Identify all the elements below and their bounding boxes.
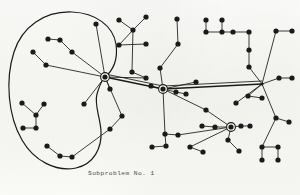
graph-node xyxy=(20,125,25,130)
graph-edge xyxy=(160,44,178,68)
graph-node xyxy=(130,27,135,32)
graph-node xyxy=(81,101,86,106)
graph-node xyxy=(148,83,153,88)
graph-node xyxy=(289,28,294,33)
subproblem-boundary xyxy=(9,12,117,169)
graph-node xyxy=(187,144,192,149)
graph-edge xyxy=(105,77,122,116)
hub-node xyxy=(102,74,107,79)
graph-node xyxy=(273,115,278,120)
graph-node xyxy=(273,28,278,33)
graph-node xyxy=(238,123,243,128)
graph-edge xyxy=(236,84,262,103)
graph-node xyxy=(219,29,224,34)
graph-node xyxy=(233,100,238,105)
graph-node xyxy=(43,62,48,67)
graph-node xyxy=(173,89,178,94)
graph-edge xyxy=(262,118,276,147)
graph-node xyxy=(57,153,62,158)
graph-node xyxy=(149,144,154,149)
figure-caption: Subproblem No. 1 xyxy=(88,170,155,177)
graph-edge xyxy=(163,89,165,134)
graph-edge xyxy=(33,52,46,65)
graph-node xyxy=(33,112,38,117)
graph-node xyxy=(57,37,62,42)
graph-node xyxy=(245,93,250,98)
graph-edge xyxy=(119,44,146,45)
node-layer xyxy=(19,14,294,162)
graph-node xyxy=(175,132,180,137)
graph-node xyxy=(236,148,241,153)
graph-node xyxy=(246,29,251,34)
graph-node xyxy=(183,91,188,96)
graph-node xyxy=(116,17,121,22)
network-diagram xyxy=(0,0,300,195)
graph-node xyxy=(275,157,280,162)
graph-node xyxy=(259,95,264,100)
graph-node xyxy=(69,49,74,54)
graph-node xyxy=(275,144,280,149)
graph-edge xyxy=(132,30,133,72)
graph-node xyxy=(163,143,168,148)
graph-node xyxy=(69,154,74,159)
graph-node xyxy=(200,149,205,154)
graph-node xyxy=(212,124,217,129)
graph-node xyxy=(107,126,112,131)
graph-node xyxy=(246,64,251,69)
graph-node xyxy=(203,107,208,112)
graph-node xyxy=(45,36,50,41)
hub-node xyxy=(228,124,233,129)
graph-node xyxy=(44,143,49,148)
graph-node xyxy=(143,75,148,80)
graph-node xyxy=(19,100,24,105)
graph-node xyxy=(116,42,121,47)
graph-node xyxy=(259,157,264,162)
graph-node xyxy=(143,41,148,46)
graph-node xyxy=(157,65,162,70)
edge-layer xyxy=(22,17,292,160)
graph-edge xyxy=(262,84,276,118)
graph-node xyxy=(286,119,291,124)
graph-node xyxy=(203,29,208,34)
graph-node xyxy=(247,123,252,128)
graph-node xyxy=(219,17,224,22)
graph-node xyxy=(33,125,38,130)
graph-node xyxy=(225,137,230,142)
graph-node xyxy=(41,101,46,106)
boundary-layer xyxy=(9,12,117,169)
graph-edge xyxy=(72,129,110,157)
trunk-edge xyxy=(163,84,262,89)
trunk-edge-parallel xyxy=(105,74,163,86)
graph-node xyxy=(230,29,235,34)
graph-node xyxy=(289,75,294,80)
graph-node xyxy=(107,86,112,91)
graph-node xyxy=(30,49,35,54)
graph-node xyxy=(143,14,148,19)
graph-node xyxy=(203,17,208,22)
graph-edge xyxy=(46,65,105,77)
graph-edge xyxy=(84,77,105,104)
graph-node xyxy=(276,75,281,80)
graph-edge xyxy=(262,78,279,84)
graph-node xyxy=(119,113,124,118)
graph-edge xyxy=(119,30,133,45)
graph-node xyxy=(162,131,167,136)
figure-page: Subproblem No. 1 xyxy=(0,0,300,195)
graph-node xyxy=(199,123,204,128)
graph-node xyxy=(175,41,180,46)
graph-edge xyxy=(262,31,276,84)
hub-node xyxy=(160,86,165,91)
graph-edge xyxy=(96,24,105,77)
graph-edge xyxy=(110,116,122,129)
graph-node xyxy=(174,16,179,21)
graph-node xyxy=(129,69,134,74)
graph-edge xyxy=(177,19,178,44)
graph-edge xyxy=(22,103,36,115)
graph-node xyxy=(259,144,264,149)
graph-node xyxy=(93,21,98,26)
graph-edge xyxy=(133,17,146,30)
graph-node xyxy=(193,79,198,84)
hub-node xyxy=(260,82,263,85)
graph-node xyxy=(246,47,251,52)
